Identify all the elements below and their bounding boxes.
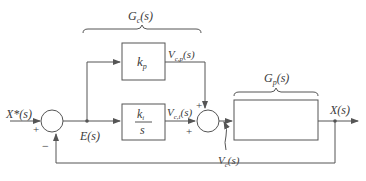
input-label: X*(s)	[5, 107, 32, 121]
disturbance-arrow	[224, 122, 227, 150]
output-label: X(s)	[329, 103, 350, 117]
summing-junction-2	[197, 110, 219, 132]
proportional-output-label: Vc,p(s)	[168, 48, 195, 63]
controller-brace	[83, 25, 201, 33]
plant-brace	[234, 88, 318, 96]
sum1-plus-sign: +	[33, 123, 39, 135]
disturbance-label: Vc(s)	[218, 154, 240, 169]
error-to-proportional-arrow	[87, 62, 120, 121]
sum2-top-plus-sign: +	[196, 99, 202, 111]
plant-group-label: Gp(s)	[264, 71, 289, 87]
error-label: E(s)	[79, 129, 100, 143]
block-diagram: Gc(s) Gp(s) X*(s) + − E(s) kp ki s Vc,p(…	[0, 0, 366, 181]
integral-denominator: s	[140, 123, 145, 137]
sum1-minus-sign: −	[42, 139, 49, 153]
plant-block	[234, 100, 318, 140]
controller-group-label: Gc(s)	[128, 9, 153, 25]
sum2-left-plus-sign: +	[186, 125, 192, 137]
integral-output-label: Vc,i(s)	[167, 106, 192, 121]
summing-junction-1	[41, 110, 63, 132]
